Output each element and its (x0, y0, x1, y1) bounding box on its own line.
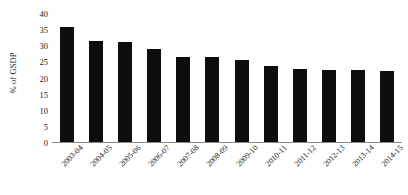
x-axis-tick-label: 2013-14 (351, 144, 376, 169)
y-axis-tick-label: 35 (40, 26, 49, 35)
y-axis-tick-label: 5 (44, 123, 48, 132)
x-axis-baseline (52, 142, 402, 143)
y-axis-tick-labels: 0510152025303540 (24, 0, 50, 150)
bar-chart: % of GSDP 0510152025303540 2003-042004-0… (0, 0, 408, 195)
plot-area (52, 14, 402, 143)
x-axis-tick-label: 2011-12 (293, 144, 317, 168)
y-axis-tick-label: 40 (40, 10, 49, 19)
y-axis-title-text: % of GSDP (8, 52, 18, 93)
y-axis-tick-label: 30 (40, 42, 49, 51)
bar (264, 66, 278, 142)
bar (176, 57, 190, 142)
x-axis-tick-label: 2009-10 (235, 144, 260, 169)
y-axis-tick-label: 20 (40, 74, 49, 83)
x-axis-tick-label: 2007-08 (176, 144, 201, 169)
x-axis-tick-label: 2005-06 (118, 144, 143, 169)
bar (118, 42, 132, 142)
x-axis-tick-label: 2006-07 (147, 144, 172, 169)
y-axis-tick-label: 25 (40, 58, 49, 67)
x-axis-tick-label: 2004-05 (89, 144, 114, 169)
x-axis-tick-label: 2003-04 (60, 144, 85, 169)
bar (147, 49, 161, 142)
x-axis-tick-label: 2010-11 (264, 144, 288, 168)
y-axis-tick-label: 0 (44, 139, 48, 148)
bar (89, 41, 103, 142)
bar (235, 60, 249, 142)
y-axis-tick-label: 10 (40, 107, 49, 116)
x-axis-tick-labels: 2003-042004-052005-062006-072007-082008-… (52, 144, 408, 195)
bar (380, 71, 394, 142)
y-axis-title: % of GSDP (2, 0, 24, 145)
bar (293, 69, 307, 142)
x-axis-tick-label: 2008-09 (206, 144, 231, 169)
x-axis-tick-label: 2012-13 (322, 144, 347, 169)
bar (322, 70, 336, 142)
y-axis-tick-label: 15 (40, 90, 49, 99)
x-axis-tick-label: 2014-15 (381, 144, 406, 169)
bar (205, 57, 219, 142)
bar (351, 70, 365, 142)
bar (60, 27, 74, 142)
